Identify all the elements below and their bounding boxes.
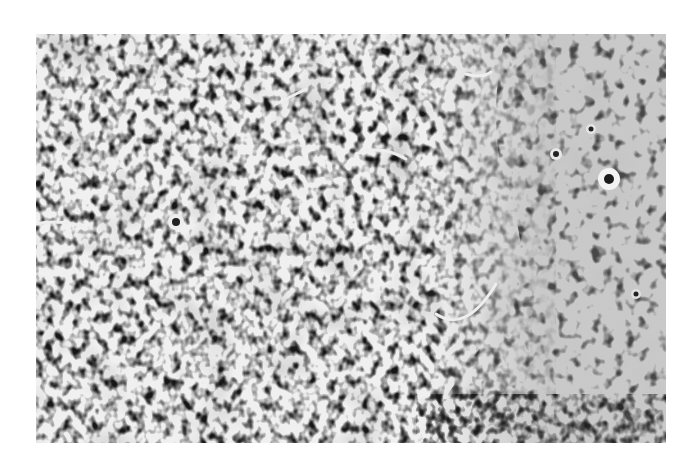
micrograph-image (36, 34, 666, 443)
histology-micrograph (36, 34, 666, 443)
lower-cellular-band (416, 394, 666, 443)
